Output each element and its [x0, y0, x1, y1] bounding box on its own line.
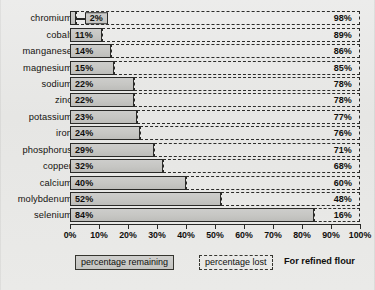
- chart-row-sodium: sodium22%78%: [0, 76, 375, 92]
- x-tick-label-100%: 100%: [349, 230, 372, 240]
- x-tick-label-50%: 50%: [206, 230, 224, 240]
- bar-remaining-calcium: 40%: [70, 176, 186, 190]
- lost-value-label-potassium: 77%: [334, 112, 352, 122]
- chart-row-potassium: potassium23%77%: [0, 109, 375, 125]
- category-label-selenium: selenium: [34, 210, 72, 220]
- category-label-chromium: chromium: [30, 13, 72, 23]
- x-tick-80%: [302, 224, 303, 229]
- category-label-cobalt: cobalt: [47, 30, 72, 40]
- bar-lost-molybdenum: 48%: [221, 192, 360, 206]
- bar-value-label-zinc: 22%: [75, 95, 93, 105]
- lost-value-label-iron: 76%: [334, 128, 352, 138]
- bar-remaining-zinc: 22%: [70, 93, 134, 107]
- category-label-phosphorus: phosphorus: [22, 145, 72, 155]
- bar-remaining-sodium: 22%: [70, 77, 134, 91]
- bar-remaining-manganese: 14%: [70, 44, 111, 58]
- bar-remaining-potassium: 23%: [70, 110, 137, 124]
- chart-note-for-refined-flour: For refined flour: [284, 255, 355, 270]
- x-tick-label-10%: 10%: [90, 230, 108, 240]
- bar-value-label-iron: 24%: [75, 128, 93, 138]
- lost-value-label-chromium: 98%: [334, 13, 352, 23]
- lost-value-label-phosphorus: 71%: [334, 145, 352, 155]
- bar-value-label-manganese: 14%: [75, 46, 93, 56]
- bar-lost-magnesium: 85%: [114, 61, 361, 75]
- x-tick-label-40%: 40%: [177, 230, 195, 240]
- bar-value-label-magnesium: 15%: [75, 63, 93, 73]
- row-track: 40%60%: [70, 176, 360, 190]
- category-label-magnesium: magnesium: [23, 63, 72, 73]
- bar-value-label-selenium: 84%: [75, 210, 93, 220]
- chart-row-chromium: chromium2%98%: [0, 10, 375, 26]
- bar-lost-cobalt: 89%: [102, 28, 360, 42]
- x-tick-label-70%: 70%: [264, 230, 282, 240]
- chart-row-selenium: selenium84%16%: [0, 207, 375, 223]
- category-label-molybdenum: molybdenum: [18, 194, 72, 204]
- lost-value-label-molybdenum: 48%: [334, 194, 352, 204]
- x-tick-label-80%: 80%: [293, 230, 311, 240]
- x-tick-30%: [157, 224, 158, 229]
- bar-lost-manganese: 86%: [111, 44, 360, 58]
- category-label-manganese: manganese: [23, 46, 73, 56]
- row-track: 52%48%: [70, 192, 360, 206]
- chart-row-manganese: manganese14%86%: [0, 43, 375, 59]
- category-label-potassium: potassium: [29, 112, 72, 122]
- x-tick-40%: [186, 224, 187, 229]
- bar-lost-copper: 68%: [163, 159, 360, 173]
- legend-item-percentage-lost: percentage lost: [199, 255, 273, 270]
- x-tick-label-60%: 60%: [235, 230, 253, 240]
- chart-row-zinc: zinc22%78%: [0, 92, 375, 108]
- x-tick-label-0%: 0%: [64, 230, 77, 240]
- lost-value-label-copper: 68%: [334, 161, 352, 171]
- x-tick-label-90%: 90%: [322, 230, 340, 240]
- chart-row-magnesium: magnesium15%85%: [0, 59, 375, 75]
- x-tick-label-20%: 20%: [119, 230, 137, 240]
- bar-lost-chromium: 98%: [76, 11, 360, 25]
- bar-value-label-sodium: 22%: [75, 79, 93, 89]
- row-track: 22%78%: [70, 77, 360, 91]
- bar-value-label-calcium: 40%: [75, 178, 93, 188]
- lost-value-label-cobalt: 89%: [334, 30, 352, 40]
- x-tick-90%: [331, 224, 332, 229]
- x-tick-0%: [70, 224, 71, 229]
- row-track: 23%77%: [70, 110, 360, 124]
- lost-value-label-zinc: 78%: [334, 95, 352, 105]
- lost-value-label-selenium: 16%: [334, 210, 352, 220]
- row-track: 29%71%: [70, 143, 360, 157]
- x-tick-50%: [215, 224, 216, 229]
- bar-value-label-molybdenum: 52%: [75, 194, 93, 204]
- bar-lost-phosphorus: 71%: [154, 143, 360, 157]
- bar-lost-selenium: 16%: [314, 208, 360, 222]
- chart-row-cobalt: cobalt11%89%: [0, 27, 375, 43]
- bar-value-label-cobalt: 11%: [75, 30, 93, 40]
- bar-value-label-phosphorus: 29%: [75, 145, 93, 155]
- bar-value-label-copper: 32%: [75, 161, 93, 171]
- lost-value-label-manganese: 86%: [334, 46, 352, 56]
- legend-item-percentage-remaining: percentage remaining: [75, 255, 174, 270]
- row-track: 2%98%: [70, 11, 360, 25]
- lost-value-label-sodium: 78%: [334, 79, 352, 89]
- bar-lost-calcium: 60%: [186, 176, 360, 190]
- bar-remaining-iron: 24%: [70, 126, 140, 140]
- row-track: 24%76%: [70, 126, 360, 140]
- chart-row-phosphorus: phosphorus29%71%: [0, 142, 375, 158]
- lost-value-label-magnesium: 85%: [334, 63, 352, 73]
- x-tick-label-30%: 30%: [148, 230, 166, 240]
- row-track: 84%16%: [70, 208, 360, 222]
- chart-row-copper: copper32%68%: [0, 158, 375, 174]
- bar-remaining-copper: 32%: [70, 159, 163, 173]
- row-track: 14%86%: [70, 44, 360, 58]
- x-tick-70%: [273, 224, 274, 229]
- x-tick-10%: [99, 224, 100, 229]
- chart-row-iron: iron24%76%: [0, 125, 375, 141]
- bar-remaining-phosphorus: 29%: [70, 143, 154, 157]
- chart-legend: percentage remaining percentage lost For…: [0, 255, 375, 273]
- category-label-sodium: sodium: [41, 79, 72, 89]
- x-tick-20%: [128, 224, 129, 229]
- x-tick-100%: [360, 224, 361, 229]
- lost-value-label-calcium: 60%: [334, 178, 352, 188]
- row-track: 22%78%: [70, 93, 360, 107]
- bar-value-label-potassium: 23%: [75, 112, 93, 122]
- row-track: 32%68%: [70, 159, 360, 173]
- bar-remaining-selenium: 84%: [70, 208, 314, 222]
- bar-lost-sodium: 78%: [134, 77, 360, 91]
